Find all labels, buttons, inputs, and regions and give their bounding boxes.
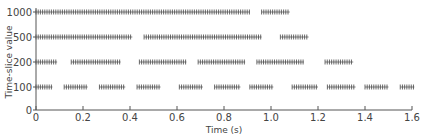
- x-tick-label: 1.2: [310, 112, 326, 123]
- x-tick-label: 1.6: [404, 112, 420, 123]
- series-row-200: [36, 60, 353, 65]
- series-row-100: [36, 85, 414, 90]
- spike-raster-chart: 00.20.40.60.81.01.21.41.601002005001000 …: [0, 0, 424, 137]
- x-tick-label: 0: [33, 112, 39, 123]
- y-tick-label: 0: [26, 105, 32, 116]
- series-row-500: [36, 35, 309, 40]
- x-tick-label: 1.0: [263, 112, 279, 123]
- series-row-1000: [36, 10, 290, 15]
- x-tick-label: 1.4: [357, 112, 373, 123]
- x-tick-label: 0.2: [75, 112, 91, 123]
- y-axis-title: Time-slice value: [4, 25, 14, 99]
- y-tick-label: 200: [13, 57, 32, 68]
- x-tick-label: 0.4: [122, 112, 138, 123]
- axes: 00.20.40.60.81.01.21.41.601002005001000: [7, 7, 420, 123]
- x-tick-label: 0.8: [216, 112, 232, 123]
- x-axis-title: Time (s): [205, 125, 243, 135]
- y-tick-label: 500: [13, 32, 32, 43]
- x-tick-label: 0.6: [169, 112, 185, 123]
- plot-area: [36, 10, 414, 90]
- y-tick-label: 100: [13, 82, 32, 93]
- y-tick-label: 1000: [7, 7, 32, 18]
